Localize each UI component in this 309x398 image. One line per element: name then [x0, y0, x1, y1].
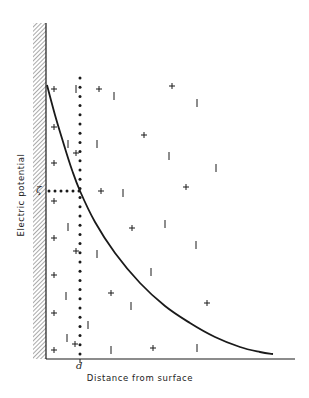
vertical-dot: [79, 343, 82, 346]
positive-charge-icon: [51, 347, 57, 353]
positive-charge-icon: [150, 345, 156, 351]
horizontal-dot: [72, 190, 75, 193]
horizontal-dot: [54, 190, 57, 193]
distance-d-label: d: [76, 360, 82, 371]
dotted-marker-lines: [48, 77, 82, 356]
vertical-dot: [79, 104, 82, 107]
vertical-dot: [79, 141, 82, 144]
positive-charge-icon: [51, 198, 57, 204]
positive-charge-icon: [141, 132, 147, 138]
vertical-dot: [79, 270, 82, 273]
vertical-dot: [79, 279, 82, 282]
x-axis-label: Distance from surface: [87, 373, 193, 383]
vertical-dot: [79, 132, 82, 135]
vertical-dot: [79, 353, 82, 356]
positive-charge-icon: [73, 248, 79, 254]
horizontal-dot: [66, 190, 69, 193]
positive-charge-icon: [169, 83, 175, 89]
vertical-dot: [79, 113, 82, 116]
vertical-dot: [79, 233, 82, 236]
positive-charge-icon: [96, 86, 102, 92]
positive-charge-icon: [98, 188, 104, 194]
vertical-dot: [79, 95, 82, 98]
charges: [51, 83, 216, 354]
positive-charge-icon: [51, 160, 57, 166]
potential-curve: [47, 85, 273, 354]
vertical-dot: [79, 178, 82, 181]
vertical-dot: [79, 224, 82, 227]
vertical-dot: [79, 334, 82, 337]
zeta-potential-label: ζ: [36, 184, 41, 195]
y-axis-label: Electric potential: [16, 154, 26, 237]
vertical-dot: [79, 316, 82, 319]
positive-charge-icon: [51, 124, 57, 130]
vertical-dot: [79, 325, 82, 328]
positive-charge-icon: [73, 150, 79, 156]
vertical-dot: [79, 196, 82, 199]
vertical-dot: [79, 159, 82, 162]
vertical-dot: [79, 86, 82, 89]
vertical-dot: [79, 242, 82, 245]
vertical-dot: [79, 288, 82, 291]
vertical-dot: [79, 169, 82, 172]
vertical-dot: [79, 205, 82, 208]
positive-charge-icon: [51, 235, 57, 241]
vertical-dot: [79, 215, 82, 218]
positive-charge-icon: [51, 272, 57, 278]
vertical-dot: [79, 251, 82, 254]
vertical-dot: [79, 307, 82, 310]
vertical-dot: [79, 77, 82, 80]
horizontal-dot: [48, 190, 51, 193]
positive-charge-icon: [51, 310, 57, 316]
positive-charge-icon: [204, 300, 210, 306]
positive-charge-icon: [183, 184, 189, 190]
positive-charge-icon: [51, 86, 57, 92]
positive-charge-icon: [72, 341, 78, 347]
vertical-dot: [79, 297, 82, 300]
positive-charge-icon: [129, 225, 135, 231]
positive-charge-icon: [108, 290, 114, 296]
vertical-dot: [79, 261, 82, 264]
double-layer-diagram: [0, 0, 309, 398]
axes: [46, 23, 295, 363]
vertical-dot: [79, 123, 82, 126]
horizontal-dot: [60, 190, 63, 193]
